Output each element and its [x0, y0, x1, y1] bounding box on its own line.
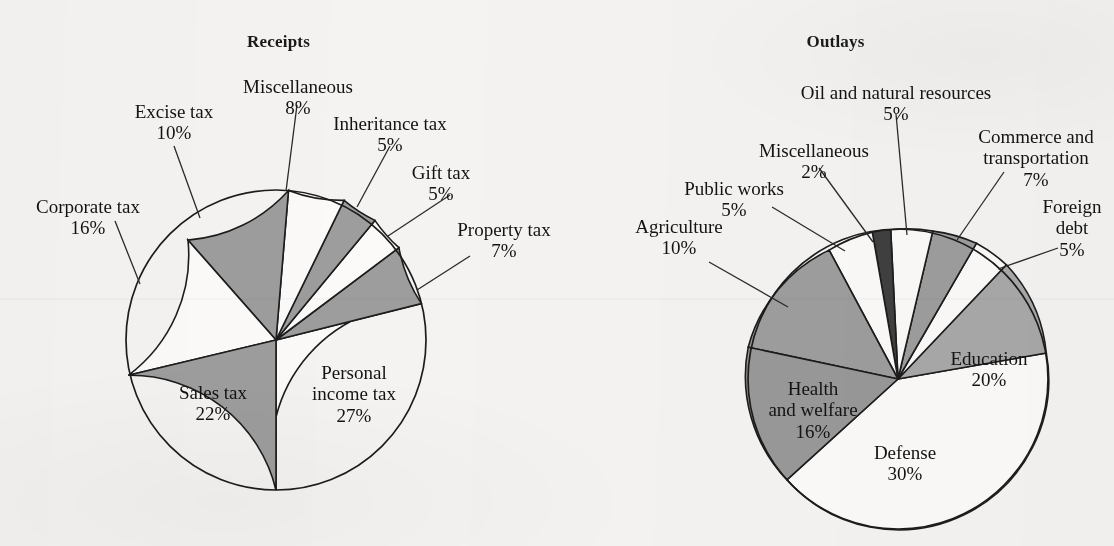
label-oil-and-natural-resources-pct: 5% [765, 103, 1027, 124]
pie-chart-receipts: Receipts [0, 0, 557, 546]
leader-oil-and-natural-resources [896, 114, 907, 235]
label-commerce-and-transportation-name: Commerce and [978, 126, 1094, 147]
label-property-tax-pct: 7% [434, 240, 574, 261]
leader-excise-tax [174, 146, 200, 218]
label-miscellaneous-outlays-name: Miscellaneous [759, 140, 869, 161]
label-miscellaneous-outlays: Miscellaneous 2% [735, 140, 893, 183]
receipts-slices [128, 191, 421, 491]
label-oil-and-natural-resources-name: Oil and natural resources [801, 82, 991, 103]
label-commerce-and-transportation-pct: 7% [952, 169, 1114, 190]
label-personal-income-tax: Personal income tax 27% [286, 362, 422, 426]
label-inheritance-tax-pct: 5% [310, 134, 470, 155]
label-defense: Defense 30% [842, 442, 968, 485]
label-health-and-welfare: Health and welfare 16% [737, 378, 889, 442]
label-foreign-debt: Foreign debt 5% [1027, 196, 1114, 260]
label-commerce-and-transportation: Commerce and transportation 7% [952, 126, 1114, 190]
label-foreign-debt-pct: 5% [1027, 239, 1114, 260]
label-sales-tax-pct: 22% [148, 403, 278, 424]
label-education-name: Education [950, 348, 1027, 369]
label-education: Education 20% [924, 348, 1054, 391]
pie-chart-outlays: Outlays [557, 0, 1114, 546]
label-health-and-welfare-name: Health [788, 378, 839, 399]
label-miscellaneous-name: Miscellaneous [243, 76, 353, 97]
label-excise-tax-name: Excise tax [135, 101, 214, 122]
label-gift-tax: Gift tax 5% [386, 162, 496, 205]
label-defense-name: Defense [874, 442, 936, 463]
label-excise-tax-pct: 10% [104, 122, 244, 143]
label-education-pct: 20% [924, 369, 1054, 390]
label-personal-income-tax-pct: 27% [286, 405, 422, 426]
leader-agriculture [709, 262, 788, 307]
label-health-and-welfare-pct: 16% [737, 421, 889, 442]
label-agriculture-pct: 10% [612, 237, 746, 258]
label-inheritance-tax: Inheritance tax 5% [310, 113, 470, 156]
label-public-works: Public works 5% [667, 178, 801, 221]
label-gift-tax-pct: 5% [386, 183, 496, 204]
label-inheritance-tax-name: Inheritance tax [333, 113, 446, 134]
label-corporate-tax-name: Corporate tax [36, 196, 140, 217]
label-gift-tax-name: Gift tax [412, 162, 471, 183]
label-commerce-and-transportation-name2: transportation [952, 147, 1114, 168]
label-sales-tax: Sales tax 22% [148, 382, 278, 425]
label-defense-pct: 30% [842, 463, 968, 484]
label-property-tax-name: Property tax [457, 219, 550, 240]
label-public-works-name: Public works [684, 178, 784, 199]
label-personal-income-tax-name2: income tax [286, 383, 422, 404]
label-corporate-tax: Corporate tax 16% [8, 196, 168, 239]
label-excise-tax: Excise tax 10% [104, 101, 244, 144]
label-foreign-debt-name2: debt [1027, 217, 1114, 238]
label-oil-and-natural-resources: Oil and natural resources 5% [765, 82, 1027, 125]
label-sales-tax-name: Sales tax [179, 382, 247, 403]
label-personal-income-tax-name: Personal [321, 362, 386, 383]
label-agriculture: Agriculture 10% [612, 216, 746, 259]
label-health-and-welfare-name2: and welfare [737, 399, 889, 420]
label-agriculture-name: Agriculture [635, 216, 723, 237]
label-corporate-tax-pct: 16% [8, 217, 168, 238]
two-pie-chart-figure: Receipts [0, 0, 1114, 546]
label-foreign-debt-name: Foreign [1042, 196, 1101, 217]
label-property-tax: Property tax 7% [434, 219, 574, 262]
